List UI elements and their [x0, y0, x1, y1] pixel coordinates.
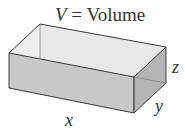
equals-sign: =: [67, 4, 87, 25]
open-box-diagram: V = Volume x y z: [0, 0, 185, 131]
label-y: y: [153, 96, 163, 116]
volume-title: V = Volume: [55, 4, 145, 25]
volume-word: Volume: [86, 4, 145, 25]
label-x: x: [64, 110, 73, 130]
label-z: z: [171, 57, 179, 77]
